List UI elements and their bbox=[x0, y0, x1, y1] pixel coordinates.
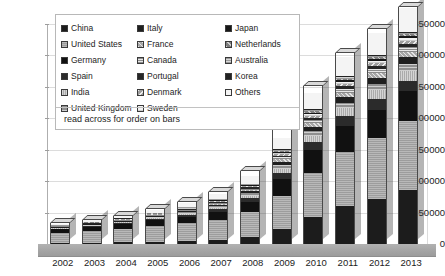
bar-segment-spain bbox=[368, 99, 386, 109]
legend-entry-spain[interactable]: Spain bbox=[61, 68, 137, 84]
bar-column[interactable] bbox=[335, 53, 355, 244]
bar-segment-us bbox=[241, 212, 259, 237]
bar-segment-others bbox=[273, 138, 291, 150]
stacked-bar bbox=[272, 124, 292, 244]
legend-entries: ChinaItalyJapanUnited StatesFranceNether… bbox=[56, 19, 299, 116]
legend-entry-korea[interactable]: Korea bbox=[225, 68, 303, 84]
stacked-bar bbox=[82, 220, 102, 244]
legend-entry-india[interactable]: India bbox=[61, 84, 137, 100]
legend-swatch-netherlands bbox=[225, 41, 232, 48]
bar-side-face bbox=[292, 114, 298, 239]
bar-segment-germany bbox=[241, 202, 259, 212]
legend-entry-italy[interactable]: Italy bbox=[137, 20, 225, 36]
bar-segment-germany bbox=[273, 179, 291, 196]
legend-entry-canada[interactable]: Canada bbox=[137, 52, 225, 68]
bar-column[interactable] bbox=[113, 216, 133, 244]
bar-side-face bbox=[355, 43, 361, 239]
bar-segment-china bbox=[368, 199, 386, 244]
bar-segment-india bbox=[399, 71, 417, 81]
bar-segment-spain bbox=[336, 116, 354, 126]
bar-segment-china bbox=[114, 242, 132, 244]
x-axis-tick-label: 2007 bbox=[203, 258, 239, 268]
x-axis-tick-label: 2013 bbox=[393, 258, 429, 268]
stacked-bar bbox=[113, 216, 133, 244]
bar-segment-china bbox=[51, 243, 69, 244]
bar-segment-china bbox=[146, 242, 164, 244]
bar-segment-us bbox=[304, 173, 322, 217]
bar-column[interactable] bbox=[303, 86, 323, 244]
stacked-bar bbox=[303, 86, 323, 244]
x-axis-tick-label: 2006 bbox=[172, 258, 208, 268]
bar-segment-us bbox=[114, 229, 132, 242]
legend-note: read across for order on bars bbox=[56, 107, 299, 129]
legend-entry-germany[interactable]: Germany bbox=[61, 52, 137, 68]
x-axis-tick-label: 2003 bbox=[77, 258, 113, 268]
bar-column[interactable] bbox=[398, 7, 418, 244]
bar-column[interactable] bbox=[208, 192, 228, 244]
legend-label: Denmark bbox=[147, 88, 181, 97]
legend-swatch-italy bbox=[137, 25, 144, 32]
legend-label: China bbox=[71, 24, 93, 33]
bar-segment-india bbox=[336, 108, 354, 116]
bar-segment-us bbox=[51, 233, 69, 243]
stacked-bar bbox=[145, 209, 165, 244]
legend-swatch-japan bbox=[225, 25, 232, 32]
legend-entry-japan[interactable]: Japan bbox=[225, 20, 303, 36]
bar-column[interactable] bbox=[50, 223, 70, 244]
legend-swatch-australia bbox=[225, 57, 232, 64]
legend-swatch-canada bbox=[137, 57, 144, 64]
legend-entry-us[interactable]: United States bbox=[61, 36, 137, 52]
stacked-bar bbox=[335, 53, 355, 244]
legend-entry-france[interactable]: France bbox=[137, 36, 225, 52]
bar-segment-china bbox=[209, 240, 227, 244]
bar-segment-uk bbox=[399, 64, 417, 71]
bar-segment-india bbox=[368, 90, 386, 99]
bar-segment-us bbox=[368, 138, 386, 199]
bar-segment-others bbox=[304, 93, 322, 109]
bar-column[interactable] bbox=[272, 124, 292, 244]
legend-swatch-korea bbox=[225, 73, 232, 80]
legend-label: Others bbox=[235, 88, 261, 97]
legend-swatch-others bbox=[225, 89, 232, 96]
bar-column[interactable] bbox=[82, 220, 102, 244]
stacked-bar bbox=[50, 223, 70, 244]
legend-label: Portugal bbox=[147, 72, 179, 81]
x-axis-tick-label: 2004 bbox=[108, 258, 144, 268]
legend-label: Spain bbox=[71, 72, 93, 81]
stacked-bar bbox=[177, 202, 197, 244]
bar-column[interactable] bbox=[145, 209, 165, 244]
legend-label: Canada bbox=[147, 56, 177, 65]
legend-label: France bbox=[147, 40, 173, 49]
legend-swatch-india bbox=[61, 89, 68, 96]
bar-segment-germany bbox=[209, 212, 227, 220]
bar-column[interactable] bbox=[240, 171, 260, 244]
bar-segment-china bbox=[336, 206, 354, 244]
x-axis-tick-label: 2011 bbox=[330, 258, 366, 268]
legend-entry-denmark[interactable]: Denmark bbox=[137, 84, 225, 100]
bar-segment-us bbox=[336, 152, 354, 206]
legend-entry-china[interactable]: China bbox=[61, 20, 137, 36]
legend-entry-others[interactable]: Others bbox=[225, 84, 303, 100]
legend-entry-australia[interactable]: Australia bbox=[225, 52, 303, 68]
legend-label: Netherlands bbox=[235, 40, 281, 49]
legend-swatch-portugal bbox=[137, 73, 144, 80]
bar-column[interactable] bbox=[367, 29, 387, 244]
bar-segment-us bbox=[209, 220, 227, 240]
bar-side-face bbox=[387, 19, 393, 239]
chart-legend[interactable]: ChinaItalyJapanUnited StatesFranceNether… bbox=[55, 14, 300, 130]
bar-segment-spain bbox=[304, 142, 322, 150]
bar-side-face bbox=[260, 161, 266, 239]
legend-swatch-china bbox=[61, 25, 68, 32]
stacked-bar bbox=[240, 171, 260, 244]
legend-swatch-us bbox=[61, 41, 68, 48]
x-axis-tick-label: 2012 bbox=[362, 258, 398, 268]
bar-segment-germany bbox=[399, 91, 417, 121]
legend-label: Italy bbox=[147, 24, 163, 33]
x-axis-tick-label: 2005 bbox=[140, 258, 176, 268]
legend-entry-netherlands[interactable]: Netherlands bbox=[225, 36, 303, 52]
legend-entry-portugal[interactable]: Portugal bbox=[137, 68, 225, 84]
legend-swatch-spain bbox=[61, 73, 68, 80]
stacked-bar bbox=[398, 7, 418, 244]
legend-swatch-germany bbox=[61, 57, 68, 64]
bar-column[interactable] bbox=[177, 202, 197, 244]
